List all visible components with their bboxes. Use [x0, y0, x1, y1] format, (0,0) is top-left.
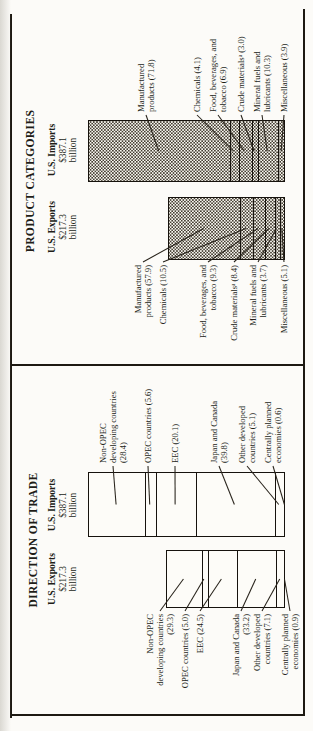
segment-label-chemicals: Chemicals (4.1) — [192, 57, 202, 112]
stacked-bars-area: Non-OPECdeveloping countries(29.3)OPEC c… — [0, 0, 313, 731]
segment-label-line: (33.2) — [241, 614, 251, 676]
bar-segment-japan-and-canada — [237, 551, 277, 607]
segment-label-line: Chemicals (4.1) — [192, 57, 202, 112]
segment-label-line: Food, beverages, and — [208, 39, 218, 112]
segment-label-non-opec-developing-countries: Non-OPECdeveloping countries(29.3) — [145, 614, 175, 686]
bar-segment-food-beverages-and-tobacco — [253, 198, 264, 259]
segment-label-line: countries (7.1) — [262, 614, 272, 671]
bar-segment-non-opec-developing-countries — [167, 551, 202, 607]
segment-label-line: Other developed — [252, 614, 262, 671]
bar-segment-food-beverages-and-tobacco — [239, 121, 253, 181]
segment-label-crude-materials: Crude materialsᵃ (3.0) — [236, 36, 246, 112]
bar-segment-miscellaneous — [278, 121, 285, 181]
segment-label-line: Crude materialsᵃ (8.4) — [229, 265, 239, 341]
bar-segment-manufactured-products — [169, 198, 240, 259]
segment-label-mineral-fuels-and-lubricants: Mineral fuels andlubricants (3.7) — [248, 265, 268, 326]
segment-label-line: economies (0.9) — [290, 614, 300, 675]
segment-label-line: Japan and Canada — [209, 401, 219, 463]
segment-label-mineral-fuels-and-lubricants: Mineral fuels andlubricants (10.3) — [252, 51, 272, 112]
segment-label-line: Food, beverages, and — [198, 265, 208, 338]
segment-label-centrally-planned-economies: Centrally plannedeconomies (0.9) — [280, 614, 300, 675]
bar-segment-other-developed-countries — [275, 473, 285, 536]
bar-segment-other-developed-countries — [276, 551, 284, 607]
bar-segment-opec-countries — [145, 473, 156, 536]
segment-label-line: developing countries — [108, 391, 118, 463]
segment-label-line: (29.3) — [165, 614, 175, 686]
segment-label-line: developing countries — [155, 614, 165, 686]
segment-label-line: Crude materialsᵃ (3.0) — [236, 36, 246, 112]
segment-label-manufactured-products: Manufacturedproducts (71.8) — [136, 59, 156, 112]
segment-label-line: Non-OPEC — [145, 614, 155, 686]
segment-label-manufactured-products: Manufacturedproducts (57.9) — [133, 265, 153, 318]
segment-label-line: tobacco (9.3) — [208, 265, 218, 338]
segment-label-food-beverages-and-tobacco: Food, beverages, andtobacco (6.9) — [208, 39, 228, 112]
stacked-bar-u-s-exports-product-categories — [168, 197, 285, 260]
bar-segment-crude-materials — [265, 198, 275, 259]
segment-label-other-developed-countries: Other developedcountries (5.1) — [237, 406, 257, 463]
segment-label-line: Manufactured — [133, 265, 143, 318]
stacked-bar-u-s-imports-product-categories — [88, 120, 285, 182]
segment-label-line: Centrally planned — [280, 614, 290, 675]
stacked-bar-u-s-exports-direction-of-trade — [166, 550, 285, 608]
segment-label-line: lubricants (3.7) — [258, 265, 268, 326]
segment-label-line: OPEC countries (5.0) — [180, 614, 190, 688]
segment-label-line: products (57.9) — [143, 265, 153, 318]
segment-label-chemicals: Chemicals (10.5) — [158, 265, 168, 324]
bar-segment-eec — [208, 551, 237, 607]
segment-label-eec: EEC (24.5) — [195, 614, 205, 653]
segment-label-line: Manufactured — [136, 59, 146, 112]
scanned-figure-page: DIRECTION OF TRADE PRODUCT CATEGORIES U.… — [0, 0, 313, 731]
segment-label-line: Mineral fuels and — [248, 265, 258, 326]
segment-label-line: (39.8) — [219, 401, 229, 463]
segment-label-line: Mineral fuels and — [252, 51, 262, 112]
segment-label-eec: EEC (20.1) — [170, 424, 180, 463]
segment-label-line: EEC (24.5) — [195, 614, 205, 653]
segment-label-japan-and-canada: Japan and Canada(33.2) — [231, 614, 251, 676]
bar-segment-eec — [156, 473, 196, 536]
segment-label-crude-materials: Crude materialsᵃ (8.4) — [229, 265, 239, 341]
segment-label-line: Centrally planned — [263, 402, 273, 463]
segment-label-food-beverages-and-tobacco: Food, beverages, andtobacco (9.3) — [198, 265, 218, 338]
segment-label-line: Miscellaneous (3.9) — [279, 44, 289, 112]
segment-label-opec-countries: OPEC countries (5.6) — [143, 389, 153, 463]
segment-label-japan-and-canada: Japan and Canada(39.8) — [209, 401, 229, 463]
segment-label-miscellaneous: Miscellaneous (3.9) — [279, 44, 289, 112]
segment-label-line: tobacco (6.9) — [218, 39, 228, 112]
segment-label-line: OPEC countries (5.6) — [143, 389, 153, 463]
segment-label-line: products (71.8) — [146, 59, 156, 112]
segment-label-miscellaneous: Miscellaneous (5.1) — [279, 265, 289, 333]
segment-label-line: economies (0.6) — [273, 402, 283, 463]
bar-segment-miscellaneous — [280, 198, 285, 259]
segment-label-line: EEC (20.1) — [170, 424, 180, 463]
figure-rotated-landscape: DIRECTION OF TRADE PRODUCT CATEGORIES U.… — [0, 0, 313, 731]
segment-label-line: (28.4) — [118, 391, 128, 463]
segment-label-centrally-planned-economies: Centrally plannedeconomies (0.6) — [263, 402, 283, 463]
segment-label-non-opec-developing-countries: Non-OPECdeveloping countries(28.4) — [98, 391, 128, 463]
segment-label-line: Non-OPEC — [98, 391, 108, 463]
bar-segment-mineral-fuels-and-lubricants — [258, 121, 278, 181]
segment-label-line: countries (5.1) — [247, 406, 257, 463]
segment-label-opec-countries: OPEC countries (5.0) — [180, 614, 190, 688]
stacked-bar-u-s-imports-direction-of-trade — [88, 472, 285, 537]
segment-label-other-developed-countries: Other developedcountries (7.1) — [252, 614, 272, 671]
bar-segment-chemicals — [240, 198, 253, 259]
segment-label-line: Miscellaneous (5.1) — [279, 265, 289, 333]
bar-segment-japan-and-canada — [196, 473, 275, 536]
segment-label-line: Other developed — [237, 406, 247, 463]
segment-label-line: Chemicals (10.5) — [158, 265, 168, 324]
segment-label-line: Japan and Canada — [231, 614, 241, 676]
bar-segment-manufactured-products — [89, 121, 230, 181]
bar-segment-chemicals — [230, 121, 238, 181]
segment-label-line: lubricants (10.3) — [262, 51, 272, 112]
bar-segment-non-opec-developing-countries — [89, 473, 145, 536]
